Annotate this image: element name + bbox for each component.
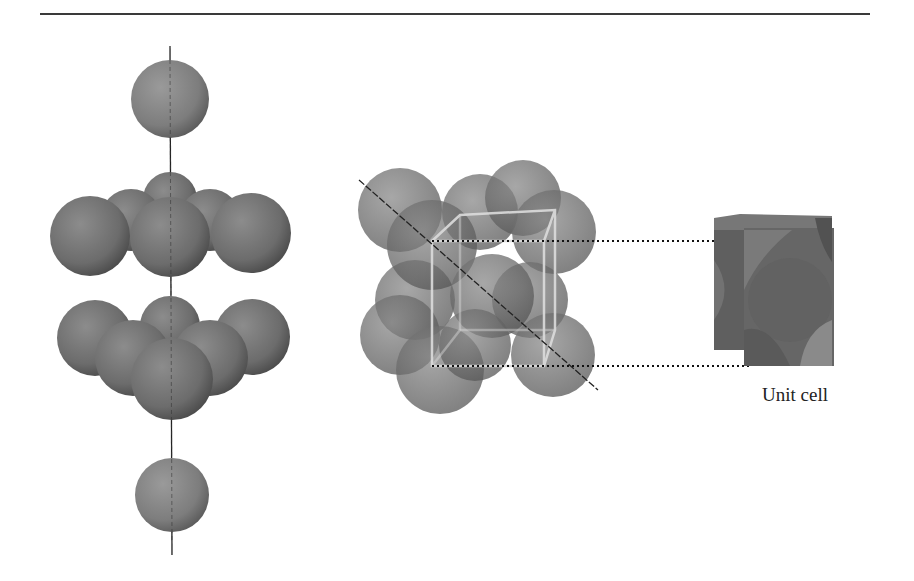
unit-cell-caption: Unit cell [740, 384, 850, 406]
fcc-figure [0, 0, 914, 581]
layer-stack [50, 46, 291, 555]
packed-cube [358, 160, 598, 414]
unit-cell [714, 214, 834, 366]
lower-layer [57, 296, 290, 420]
